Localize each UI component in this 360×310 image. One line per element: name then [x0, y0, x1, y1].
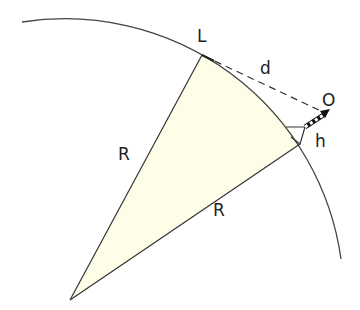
label-height: h — [315, 131, 326, 151]
label-radius-left: R — [118, 144, 130, 164]
label-horizon-point: L — [197, 26, 207, 46]
horizon-diagram: L d O h R R — [0, 0, 360, 310]
label-radius-right: R — [213, 200, 225, 220]
observer-tower-icon — [305, 109, 330, 127]
label-distance: d — [260, 58, 271, 78]
label-observer: O — [322, 90, 335, 110]
sector-wedge — [70, 55, 300, 300]
